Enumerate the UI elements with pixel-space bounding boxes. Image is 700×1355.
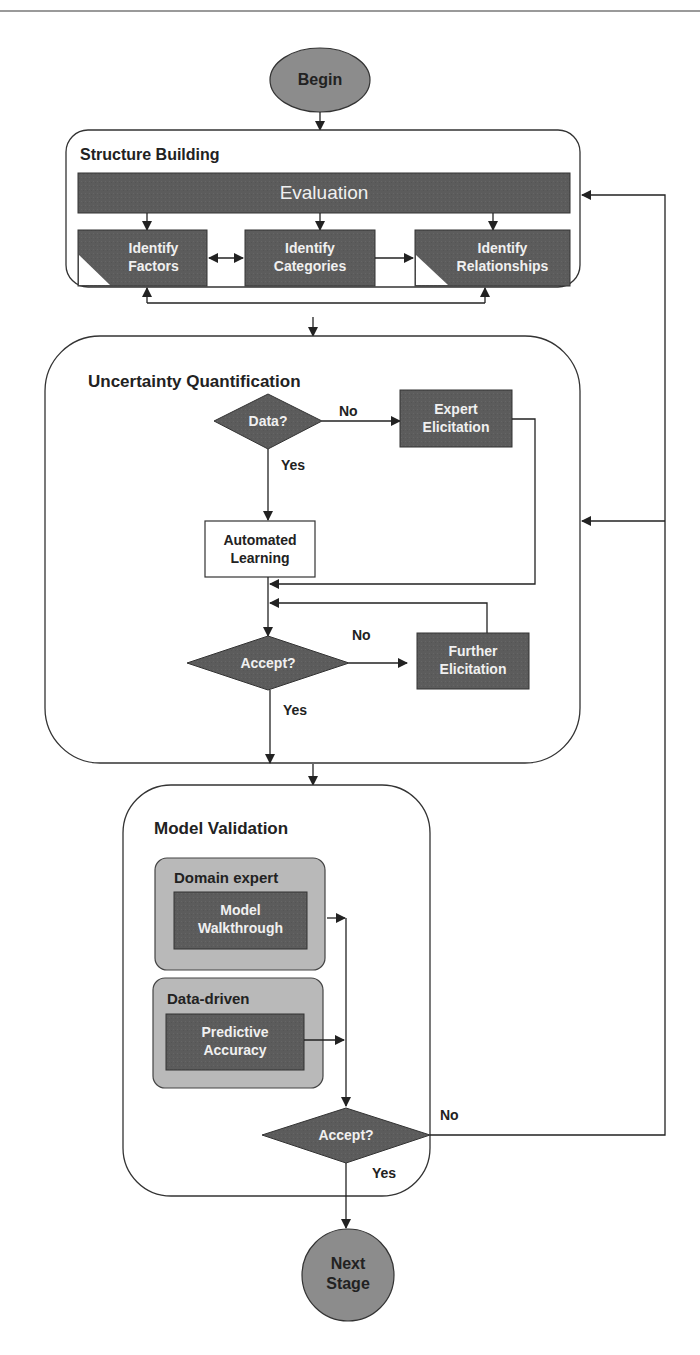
data-yes-label: Yes	[281, 457, 305, 473]
evaluation-label: Evaluation	[78, 181, 570, 205]
data-driven-title: Data-driven	[167, 990, 250, 1007]
mv-no-label: No	[440, 1107, 459, 1123]
identify-relationships-label: Identify Relationships	[435, 240, 570, 275]
automated-learning-label: Automated Learning	[205, 532, 315, 567]
model-walkthrough-label: Model Walkthrough	[174, 902, 307, 937]
expert-elicitation-label: Expert Elicitation	[400, 401, 512, 436]
domain-expert-title: Domain expert	[174, 869, 278, 886]
further-elicitation-label: Further Elicitation	[417, 643, 529, 678]
data-decision-label: Data?	[218, 413, 318, 431]
model-validation-title: Model Validation	[154, 819, 288, 839]
identify-categories-label: Identify Categories	[245, 240, 375, 275]
mv-accept-label: Accept?	[296, 1127, 396, 1145]
identify-factors-label: Identify Factors	[100, 240, 207, 275]
uncertainty-quantification-title: Uncertainty Quantification	[88, 372, 301, 392]
predictive-accuracy-label: Predictive Accuracy	[166, 1024, 304, 1059]
begin-label: Begin	[270, 70, 370, 90]
data-no-label: No	[339, 403, 358, 419]
structure-building-title: Structure Building	[80, 146, 220, 164]
uq-accept-no-label: No	[352, 627, 371, 643]
next-stage-label: Next Stage	[298, 1254, 398, 1294]
uq-accept-label: Accept?	[218, 655, 318, 673]
uq-accept-yes-label: Yes	[283, 702, 307, 718]
mv-yes-label: Yes	[372, 1165, 396, 1181]
